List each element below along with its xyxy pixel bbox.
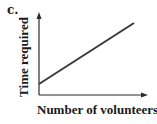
- y-axis-label: Time required: [16, 17, 32, 97]
- data-line: [39, 23, 134, 84]
- x-axis-arrow-icon: [141, 93, 148, 98]
- y-axis-arrow-icon: [37, 12, 42, 19]
- x-axis-label: Number of volunteers: [37, 102, 157, 118]
- chart-figure: c. Time required Number of volunteers: [0, 0, 157, 124]
